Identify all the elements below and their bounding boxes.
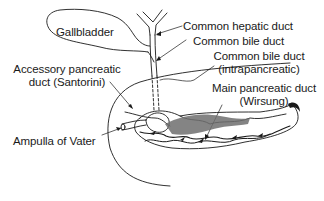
ampulla	[122, 120, 146, 130]
label-gallbladder: Gallbladder	[56, 26, 114, 39]
common-bile-duct	[150, 35, 157, 76]
label-cbd-intra-line2: (intrapancreatic)	[208, 63, 310, 76]
label-accessory-line1: Accessory pancreatic	[8, 63, 126, 76]
label-main-duct-line1: Main pancreatic duct	[204, 82, 324, 95]
label-cbd-intrapancreatic: Common bile duct (intrapancreatic)	[208, 50, 310, 76]
label-accessory-duct: Accessory pancreatic duct (Santorini)	[8, 63, 126, 89]
label-ampulla-of-vater: Ampulla of Vater	[13, 135, 96, 148]
label-cbd-intra-line1: Common bile duct	[208, 50, 310, 63]
label-accessory-line2: duct (Santorini)	[8, 76, 126, 89]
label-main-duct-line2: (Wirsung)	[204, 95, 324, 108]
label-main-pancreatic-duct: Main pancreatic duct (Wirsung)	[204, 82, 324, 108]
main-duct-shading	[165, 114, 250, 134]
label-common-bile-duct: Common bile duct	[193, 35, 284, 48]
pancreas-duct-diagram: Gallbladder Common hepatic duct Common b…	[0, 0, 324, 201]
intrapancreatic-duct	[152, 76, 159, 110]
label-common-hepatic-duct: Common hepatic duct	[183, 20, 293, 33]
hepatic-duct-branches	[137, 10, 167, 35]
